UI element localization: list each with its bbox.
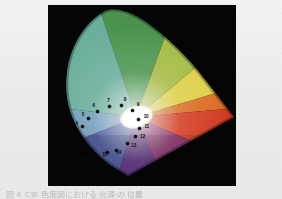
data-point-label: 16 (81, 158, 86, 163)
data-point (108, 105, 111, 108)
data-point-label: 4 (75, 122, 77, 127)
data-point-label: 14 (116, 151, 121, 156)
data-point (96, 110, 99, 113)
data-point (87, 117, 90, 120)
data-point-label: 2 (71, 140, 73, 145)
data-point (138, 127, 141, 130)
data-point-label: 12 (140, 135, 145, 140)
data-point-label: 15 (102, 153, 107, 158)
chromaticity-plot: 12345678910111213141516 (48, 5, 236, 186)
data-point-label: 8 (124, 98, 126, 103)
data-point (137, 118, 140, 121)
figure-panel: 12345678910111213141516 (48, 5, 236, 186)
data-point-label: 10 (144, 115, 149, 120)
data-point (126, 142, 129, 145)
data-point-label: 3 (72, 131, 74, 136)
chromaticity-gamut (48, 5, 236, 186)
data-point-label: 5 (82, 113, 84, 118)
data-point-label: 7 (107, 99, 109, 104)
figure-caption-text: 図 4. CIE 色度図における 光源 の 位置 (6, 189, 143, 199)
page-background: 12345678910111213141516 図 4. CIE 色度図における… (0, 0, 282, 199)
data-point-label: 1 (72, 149, 74, 154)
data-point (134, 135, 137, 138)
figure-caption: 図 4. CIE 色度図における 光源 の 位置 (6, 188, 276, 199)
data-point-label: 9 (137, 103, 139, 108)
data-point-label: 13 (131, 144, 136, 149)
data-point-label: 11 (145, 125, 149, 130)
data-point (81, 125, 84, 128)
data-point-label: 6 (93, 104, 95, 109)
